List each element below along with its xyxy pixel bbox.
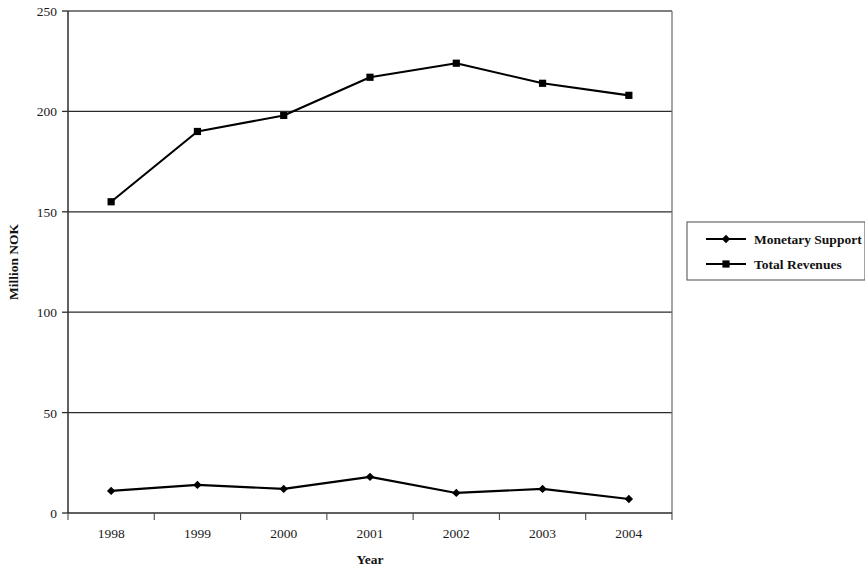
y-axis-tick-label: 50: [44, 406, 58, 421]
square-marker: [625, 92, 632, 99]
x-axis-tick-label: 2000: [270, 526, 297, 541]
x-axis-tick-label: 2001: [357, 526, 384, 541]
square-marker: [194, 128, 201, 135]
x-axis-tick-label: 2004: [615, 526, 642, 541]
y-axis-tick-label: 250: [37, 4, 58, 19]
x-axis: 1998199920002001200220032004: [68, 513, 672, 541]
legend: Monetary SupportTotal Revenues: [687, 222, 865, 280]
y-axis-tick-label: 100: [37, 305, 58, 320]
square-marker: [453, 60, 460, 67]
square-marker: [539, 80, 546, 87]
plot-area: [68, 11, 672, 513]
legend-item-label: Monetary Support: [754, 232, 862, 247]
chart-canvas: 050100150200250Million NOK19981999200020…: [0, 0, 865, 572]
square-marker-icon: [722, 260, 729, 267]
line-chart: 050100150200250Million NOK19981999200020…: [0, 0, 865, 572]
x-axis-title: Year: [357, 552, 384, 567]
y-axis-tick-label: 0: [50, 506, 57, 521]
x-axis-tick-label: 2003: [529, 526, 556, 541]
x-axis-tick-label: 1999: [184, 526, 211, 541]
y-axis-title: Million NOK: [6, 223, 21, 300]
legend-item-label: Total Revenues: [754, 257, 842, 272]
y-axis: 050100150200250: [37, 4, 68, 521]
square-marker: [108, 198, 115, 205]
x-axis-tick-label: 1998: [98, 526, 125, 541]
square-marker: [280, 112, 287, 119]
y-axis-tick-label: 200: [37, 104, 58, 119]
y-axis-tick-label: 150: [37, 205, 58, 220]
square-marker: [366, 74, 373, 81]
x-axis-tick-label: 2002: [443, 526, 470, 541]
